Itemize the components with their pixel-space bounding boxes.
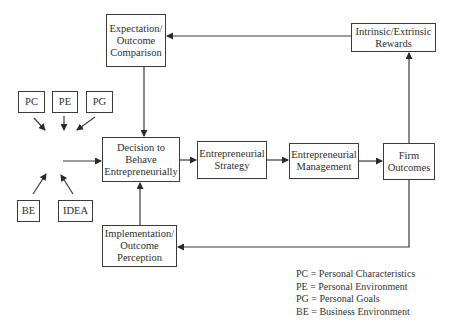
legend-item: BE = Business Environment [296,306,415,319]
legend-item: PG = Personal Goals [296,293,415,306]
expectation-outcome-comparison-box: Expectation/ Outcome Comparison [106,14,166,67]
expectation-label: Expectation/ Outcome Comparison [107,23,165,59]
pc-box: PC [18,91,45,113]
decision-label: Decision to Behave Entrepreneurially [103,142,179,178]
management-box: Entrepreneurial Management [289,143,359,179]
pe-label: PE [59,96,71,108]
idea-label: IDEA [63,205,88,217]
rewards-box: Intrinsic/Extrinsic Rewards [351,23,436,52]
firm-label: Firm Outcomes [384,150,434,174]
be-box: BE [17,200,40,222]
firm-outcomes-box: Firm Outcomes [383,143,435,180]
idea-box: IDEA [58,200,93,222]
pe-box: PE [52,91,78,113]
rewards-label: Intrinsic/Extrinsic Rewards [352,26,435,50]
legend: PC = Personal Characteristics PE = Perso… [296,268,415,318]
implementation-label: Implementation/ Outcome Perception [103,228,176,264]
strategy-box: Entrepreneurial Strategy [197,141,267,179]
be-label: BE [22,205,35,217]
pc-label: PC [25,96,38,108]
pg-label: PG [93,96,106,108]
decision-box: Decision to Behave Entrepreneurially [102,137,180,182]
legend-item: PE = Personal Environment [296,281,415,294]
strategy-label: Entrepreneurial Strategy [198,148,266,172]
implementation-box: Implementation/ Outcome Perception [102,225,177,267]
pg-box: PG [86,91,113,113]
management-label: Entrepreneurial Management [290,149,358,173]
legend-item: PC = Personal Characteristics [296,268,415,281]
